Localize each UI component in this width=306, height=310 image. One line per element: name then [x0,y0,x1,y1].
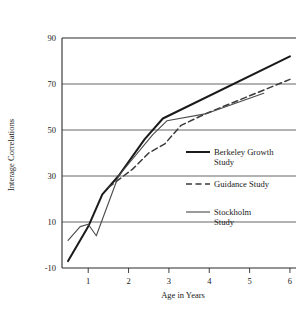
x-tick-label-4: 4 [207,276,212,286]
series-line-2 [68,93,264,240]
series-line-1 [108,79,290,187]
legend-label-2: Stockholm [214,207,252,217]
x-tick-label-3: 3 [167,276,171,286]
legend-label-2-line2: Study [214,217,235,227]
legend-label-0-line2: Study [214,157,235,167]
x-tick-label-6: 6 [288,276,292,286]
chart-container: -101030507090 123456 Berkeley GrowthStud… [0,0,306,310]
y-tick-label-30: 30 [48,171,57,181]
x-axis [88,268,290,273]
x-tick-label-5: 5 [247,276,251,286]
y-tick-label-50: 50 [48,125,57,135]
y-tick-label--10: -10 [45,263,56,273]
interage-correlations-line-chart: -101030507090 123456 Berkeley GrowthStud… [0,0,306,310]
x-tick-label-2: 2 [126,276,130,286]
chart-legend: Berkeley GrowthStudyGuidance StudyStockh… [186,147,274,227]
data-series-group [68,56,290,261]
x-tick-labels: 123456 [86,276,292,286]
y-tick-labels: -101030507090 [45,33,56,273]
y-tick-label-90: 90 [48,33,57,43]
y-axis-title: Interage Correlations [6,119,16,191]
legend-label-1: Guidance Study [214,179,270,189]
x-tick-label-1: 1 [86,276,90,286]
y-tick-label-70: 70 [48,79,57,89]
y-tick-label-10: 10 [48,217,57,227]
x-axis-title: Age in Years [161,290,205,300]
legend-label-0: Berkeley Growth [214,147,274,157]
series-line-0 [68,56,290,261]
